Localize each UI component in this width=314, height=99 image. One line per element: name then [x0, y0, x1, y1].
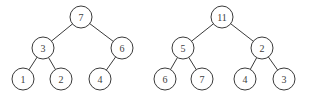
- tree-edge-7-6: [90, 24, 113, 42]
- node-label-R2: 2: [260, 43, 265, 54]
- node-label-L3: 3: [41, 43, 46, 54]
- tree-node-R6[interactable]: 6: [154, 68, 176, 90]
- node-label-R5: 5: [181, 43, 186, 54]
- tree-node-R7[interactable]: 7: [191, 68, 213, 90]
- node-label-L1: 1: [21, 74, 26, 85]
- tree-node-L4[interactable]: 4: [89, 68, 111, 90]
- tree-edge-11-5: [192, 24, 214, 41]
- tree-edge-5-6: [171, 58, 178, 70]
- tree-edge-11-2: [231, 24, 254, 42]
- node-label-R3: 3: [282, 74, 287, 85]
- tree-diagram-canvas: 73612411526743: [0, 0, 314, 99]
- tree-node-R5[interactable]: 5: [172, 37, 194, 59]
- tree-node-L3[interactable]: 3: [32, 37, 54, 59]
- node-label-R4: 4: [243, 74, 248, 85]
- node-label-R6: 6: [163, 74, 168, 85]
- node-label-L2: 2: [59, 74, 64, 85]
- tree-edge-2-4: [250, 58, 256, 70]
- node-label-L4: 4: [98, 74, 103, 85]
- node-label-L6: 6: [120, 43, 125, 54]
- binary-tree-figure: 73612411526743: [0, 0, 314, 99]
- tree-node-L1[interactable]: 1: [12, 68, 34, 90]
- tree-edge-3-1: [29, 57, 37, 70]
- tree-node-L7[interactable]: 7: [70, 6, 92, 28]
- tree-edge-5-7: [189, 57, 197, 69]
- right-tree: 11526743: [154, 6, 295, 90]
- tree-node-L2[interactable]: 2: [50, 68, 72, 90]
- tree-node-R11[interactable]: 11: [211, 6, 233, 28]
- tree-node-R4[interactable]: 4: [234, 68, 256, 90]
- left-tree: 736124: [12, 6, 133, 90]
- node-label-R7: 7: [200, 74, 205, 85]
- tree-edge-7-3: [52, 24, 73, 41]
- node-label-L7: 7: [79, 12, 84, 23]
- tree-edge-3-2: [49, 58, 56, 70]
- tree-edge-2-3: [268, 57, 277, 70]
- node-label-R11: 11: [217, 12, 227, 23]
- tree-node-L6[interactable]: 6: [111, 37, 133, 59]
- tree-edge-6-4: [106, 57, 115, 70]
- tree-node-R2[interactable]: 2: [251, 37, 273, 59]
- tree-node-R3[interactable]: 3: [273, 68, 295, 90]
